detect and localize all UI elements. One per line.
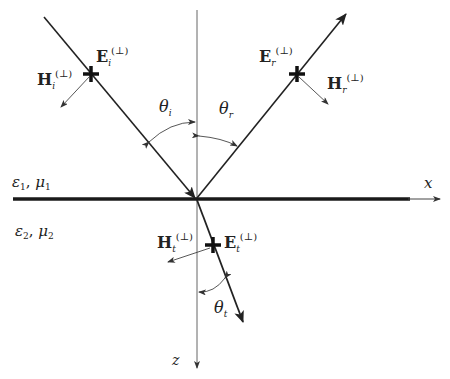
reflected-e-label: Er(⊥)	[259, 45, 293, 68]
x-axis-label: x	[424, 174, 433, 192]
transmitted-e-field-cross-icon	[205, 237, 221, 253]
incident-h-field-arrow	[61, 76, 90, 107]
z-axis-label: z	[171, 352, 180, 368]
upper-medium-label: ε1, μ1	[12, 173, 51, 192]
reflected-h-label: Hr(⊥)	[327, 72, 364, 95]
incident-e-label: Ei(⊥)	[96, 45, 128, 68]
incident-angle-arc	[149, 122, 195, 142]
transmitted-h-label: Ht(⊥)	[157, 231, 193, 254]
transmitted-angle-arc	[199, 278, 225, 292]
reflected-angle-arc	[199, 136, 237, 146]
lower-medium-label: ε2, μ2	[15, 222, 54, 241]
incident-h-label: Hi(⊥)	[37, 68, 72, 91]
reflected-angle-label: θr	[219, 99, 234, 120]
incident-angle-label: θi	[159, 97, 172, 118]
transmitted-angle-label: θt	[214, 298, 228, 319]
diagram-canvas: Ei(⊥) Hi(⊥) θi Er(⊥) Hr(⊥) θr Et(⊥) Ht(⊥…	[0, 0, 450, 379]
reflected-h-field-arrow	[299, 77, 328, 104]
transmitted-e-label: Et(⊥)	[224, 231, 257, 254]
